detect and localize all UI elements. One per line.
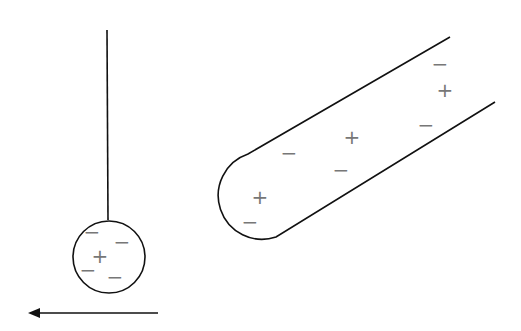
positive-charge-rod: + [344,125,361,149]
negative-charge-rod: − [333,158,350,182]
negative-charge-ball: − [84,220,101,244]
positive-charge-rod: + [437,78,454,102]
negative-charge-rod: − [432,52,449,76]
negative-charge-rod: − [281,141,298,165]
positive-charge-rod: + [252,185,269,209]
pendulum-string [107,30,108,220]
negative-charge-ball: − [114,230,131,254]
diagram-canvas: −−+−− −+−+−−+− [0,0,521,331]
motion-arrow-icon [28,308,158,318]
negative-charge-rod: − [242,210,259,234]
rod-charges: −+−+−−+− [242,52,454,234]
negative-charge-ball: − [107,265,124,289]
negative-charge-ball: − [80,258,97,282]
negative-charge-rod: − [418,113,435,137]
